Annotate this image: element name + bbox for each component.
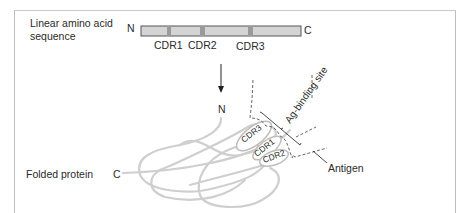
binding-site-label: Ag-binding site [283,64,330,125]
cdr3-band [248,26,253,36]
diagram-graphics: CDR3 CDR1 CDR2 Ag-binding site [0,0,469,213]
cdr2-band [200,26,205,36]
cdr1-band [167,26,171,36]
folding-arrow [218,64,224,93]
antigen-leader-line [313,151,327,163]
linear-sequence-bar [141,26,301,36]
